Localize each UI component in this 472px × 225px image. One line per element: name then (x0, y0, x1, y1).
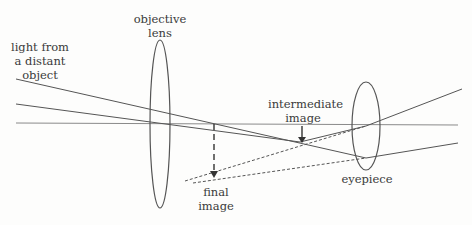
label-objective: objective lens (130, 12, 190, 40)
label-intermediate: intermediate image (268, 97, 338, 125)
label-intermediate-1: intermediate (268, 97, 338, 111)
label-final: final image (196, 185, 236, 213)
label-light-1: light from (10, 40, 70, 54)
ray-converge (300, 126, 366, 142)
label-objective-2: lens (130, 26, 190, 40)
label-final-2: image (196, 199, 236, 213)
label-final-1: final (196, 185, 236, 199)
label-eyepiece: eyepiece (334, 172, 400, 186)
ray-out-top (366, 89, 462, 126)
label-light-3: object (10, 68, 70, 82)
final-arrowhead (210, 171, 218, 178)
label-intermediate-2: image (268, 111, 338, 125)
label-light: light from a distant object (10, 40, 70, 82)
label-objective-1: objective (130, 12, 190, 26)
telescope-diagram: light from a distant object objective le… (0, 0, 472, 225)
label-light-2: a distant (10, 54, 70, 68)
diagram-lines (0, 0, 472, 225)
ray-out-bottom (366, 143, 458, 158)
optical-axis (16, 123, 458, 125)
